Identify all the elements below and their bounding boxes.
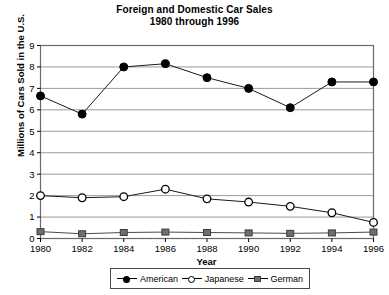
svg-text:1994: 1994 (321, 243, 342, 254)
legend-label-japanese: Japanese (205, 274, 244, 284)
svg-text:4: 4 (29, 147, 34, 158)
x-axis-ticks: 198019821984198619881990199219941996 (30, 239, 384, 254)
series-lines (41, 64, 374, 234)
svg-text:3: 3 (29, 169, 34, 180)
svg-text:1982: 1982 (72, 243, 93, 254)
svg-text:7: 7 (29, 83, 34, 94)
legend-item-german: German (248, 274, 304, 284)
chart-container: Foreign and Domestic Car Sales 1980 thro… (0, 0, 389, 295)
svg-text:1988: 1988 (196, 243, 217, 254)
legend-item-japanese: Japanese (182, 274, 244, 284)
svg-text:1984: 1984 (113, 243, 134, 254)
svg-text:1: 1 (29, 211, 34, 222)
legend-label-american: American (140, 274, 178, 284)
chart-legend: American Japanese German (110, 268, 310, 289)
svg-text:1986: 1986 (155, 243, 176, 254)
japanese-marker-icon (182, 274, 202, 284)
svg-text:1990: 1990 (238, 243, 259, 254)
svg-text:1996: 1996 (363, 243, 384, 254)
american-marker-icon (117, 274, 137, 284)
legend-label-german: German (271, 274, 304, 284)
legend-item-american: American (117, 274, 178, 284)
svg-text:8: 8 (29, 61, 34, 72)
svg-text:9: 9 (29, 40, 34, 51)
svg-text:5: 5 (29, 126, 34, 137)
x-axis-label: Year (40, 256, 373, 267)
svg-text:6: 6 (29, 104, 34, 115)
svg-text:1980: 1980 (30, 243, 51, 254)
plot-area: 0123456789 19801982198419861988199019921… (0, 0, 389, 295)
y-axis-ticks: 0123456789 (29, 40, 40, 244)
svg-text:2: 2 (29, 190, 34, 201)
gridlines (41, 46, 374, 218)
svg-text:1992: 1992 (280, 243, 301, 254)
series-markers (37, 60, 378, 237)
german-marker-icon (248, 274, 268, 284)
